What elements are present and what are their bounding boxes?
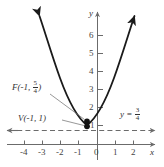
- directrix-label: y = 34: [120, 107, 140, 122]
- y-tick-label-6: 6: [89, 31, 94, 40]
- x-tick-label-2: 2: [131, 148, 136, 157]
- directrix-label-equals: =: [126, 109, 132, 119]
- directrix-fraction-denominator: 4: [135, 115, 140, 122]
- focus-label-suffix: ): [38, 82, 41, 92]
- focus-label-prefix: F(: [12, 82, 21, 92]
- y-axis-label: y: [89, 9, 93, 18]
- focus-label-fraction: 54: [33, 80, 38, 95]
- x-tick-label--1: -1: [74, 148, 82, 157]
- vertex-label: V(-1, 1): [18, 114, 46, 123]
- x-tick-label--4: -4: [20, 148, 28, 157]
- x-tick-label--2: -2: [56, 148, 64, 157]
- x-tick-label-0: 0: [94, 148, 99, 157]
- focus-label-comma: ,: [28, 82, 30, 92]
- y-tick-label-2: 2: [89, 103, 94, 112]
- vertex-leader-line: [62, 120, 84, 126]
- x-axis-label: x: [150, 148, 154, 157]
- y-tick-label-1: 1: [90, 121, 95, 130]
- x-tick-label-1: 1: [113, 148, 118, 157]
- y-tick-label-3: 3: [89, 85, 94, 94]
- x-axis-ticks: [25, 141, 134, 145]
- y-tick-label-4: 4: [89, 67, 94, 76]
- focus-fraction-denominator: 4: [33, 88, 38, 95]
- directrix-label-fraction: 34: [135, 107, 140, 122]
- focus-label: F(-1, 54): [12, 80, 41, 95]
- focus-label-x: -1: [21, 82, 29, 92]
- x-tick-label--3: -3: [38, 148, 46, 157]
- directrix-label-lhs: y: [120, 109, 124, 119]
- y-tick-label-5: 5: [89, 49, 94, 58]
